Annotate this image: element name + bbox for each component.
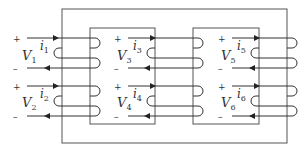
winding-3-minus: – <box>114 64 119 74</box>
winding-1-minus: – <box>13 64 18 74</box>
winding-3-current: i3 <box>133 39 142 55</box>
winding-6-plus: + <box>218 82 226 92</box>
winding-3-plus: + <box>114 34 122 44</box>
winding-2: + – V2 i2 <box>13 82 100 122</box>
winding-6-minus: – <box>218 112 223 122</box>
winding-4-voltage: V4 <box>117 95 131 112</box>
winding-2-minus: – <box>13 112 18 122</box>
winding-3: + – V3 i3 <box>114 34 203 74</box>
winding-5-voltage: V5 <box>221 48 235 65</box>
winding-4: + – V4 i4 <box>114 82 203 122</box>
winding-4-plus: + <box>114 82 122 92</box>
transformer-diagram: + – V1 i1 + – V2 i2 + – V3 i3 <box>0 0 308 154</box>
core-outer-frame <box>62 9 287 143</box>
winding-5: + – V5 i5 <box>218 34 297 74</box>
magnetic-core <box>62 9 287 143</box>
winding-1: + – V1 i1 <box>13 34 100 74</box>
winding-2-plus: + <box>13 82 21 92</box>
winding-3-voltage: V3 <box>117 48 131 65</box>
winding-1-plus: + <box>13 34 21 44</box>
winding-6-voltage: V6 <box>221 95 235 112</box>
winding-2-current: i2 <box>40 87 49 103</box>
winding-5-minus: – <box>218 64 223 74</box>
winding-2-voltage: V2 <box>22 95 36 112</box>
winding-6-current: i6 <box>237 87 246 103</box>
winding-1-voltage: V1 <box>22 48 36 65</box>
winding-5-current: i5 <box>237 39 246 55</box>
winding-4-minus: – <box>114 112 119 122</box>
winding-4-current: i4 <box>133 87 142 103</box>
winding-6: + – V6 i6 <box>218 82 297 122</box>
winding-1-current: i1 <box>40 39 49 55</box>
winding-5-plus: + <box>218 34 226 44</box>
